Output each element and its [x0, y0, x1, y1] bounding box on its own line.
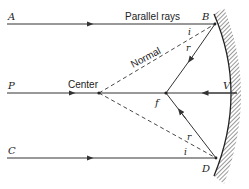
label-d: D	[201, 163, 210, 174]
label-r-bottom: r	[187, 132, 192, 142]
label-r-top: r	[186, 43, 191, 53]
label-center: Center	[68, 79, 99, 90]
label-p: P	[7, 80, 15, 91]
normal-b	[99, 24, 215, 93]
point-d	[215, 157, 218, 160]
label-b: B	[201, 11, 209, 22]
point-b	[214, 23, 217, 26]
mirror-hatching	[214, 8, 241, 184]
concave-mirror-diagram: A P C B D V f Center Parallel rays Norma…	[0, 0, 249, 189]
center-point	[97, 91, 100, 94]
label-f: f	[154, 97, 161, 108]
focus-point	[164, 91, 167, 94]
label-i-bottom: i	[184, 147, 187, 157]
label-a: A	[7, 11, 15, 22]
label-i-top: i	[188, 27, 191, 37]
ray-d-reflected	[166, 93, 216, 158]
label-parallel-rays: Parallel rays	[125, 11, 180, 22]
label-c: C	[8, 145, 16, 156]
ray-b-reflected	[190, 24, 215, 60]
label-normal: Normal	[129, 45, 163, 70]
